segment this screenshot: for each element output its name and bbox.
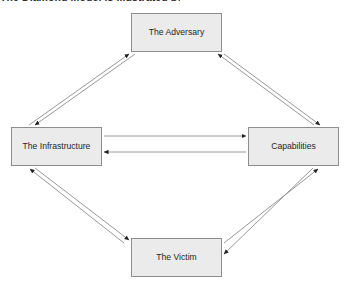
node-victim[interactable]: The Victim	[131, 238, 222, 277]
edge-infrastructure-to-victim	[35, 168, 129, 240]
node-capabilities[interactable]: Capabilities	[248, 127, 339, 166]
edge-capabilities-to-adversary	[218, 54, 314, 125]
edge-capabilities-to-victim	[224, 168, 313, 254]
edge-infrastructure-to-adversary	[29, 54, 129, 125]
diamond-model-diagram: The Diamond Model is illustrated below:	[0, 0, 344, 287]
node-adversary-label: The Adversary	[149, 28, 204, 37]
edge-adversary-to-capabilities	[224, 54, 320, 125]
node-infrastructure[interactable]: The Infrastructure	[11, 127, 102, 166]
node-infrastructure-label: The Infrastructure	[23, 142, 91, 151]
node-victim-label: The Victim	[156, 253, 196, 262]
edge-victim-to-infrastructure	[30, 169, 124, 243]
edge-adversary-to-infrastructure	[35, 54, 135, 125]
node-adversary[interactable]: The Adversary	[131, 13, 222, 52]
edge-victim-to-capabilities	[224, 169, 318, 243]
node-capabilities-label: Capabilities	[271, 142, 315, 151]
